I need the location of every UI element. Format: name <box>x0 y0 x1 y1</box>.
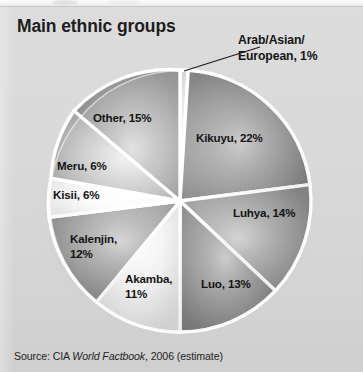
callout-line-2: European, 1% <box>238 48 317 64</box>
slice-label-akamba: Akamba, 11% <box>125 272 172 301</box>
callout-arab-asian-european: Arab/Asian/ European, 1% <box>238 32 317 64</box>
slice-label-akamba-line-1: Akamba, <box>125 272 172 287</box>
slice-label-other: Other, 15% <box>93 111 151 126</box>
slice-label-kikuyu: Kikuyu, 22% <box>196 131 263 146</box>
slice-label-luo: Luo, 13% <box>201 277 251 292</box>
source-note: Source: CIA World Factbook, 2006 (estima… <box>14 350 223 362</box>
chart-page: Main ethnic groups <box>0 0 363 372</box>
slice-label-kalenjin-line-2: 12% <box>70 247 117 262</box>
callout-line-1: Arab/Asian/ <box>238 32 317 48</box>
slice-label-meru: Meru, 6% <box>57 159 107 174</box>
source-prefix: Source: CIA <box>14 350 72 362</box>
slice-label-kalenjin: Kalenjin, 12% <box>70 232 117 261</box>
slice-label-kisii: Kisii, 6% <box>53 188 99 203</box>
source-publication: World Factbook <box>72 350 145 362</box>
slice-label-luhya: Luhya, 14% <box>233 206 295 221</box>
slice-label-akamba-line-2: 11% <box>125 287 172 302</box>
source-suffix: , 2006 (estimate) <box>145 350 223 362</box>
slice-label-kalenjin-line-1: Kalenjin, <box>70 232 117 247</box>
